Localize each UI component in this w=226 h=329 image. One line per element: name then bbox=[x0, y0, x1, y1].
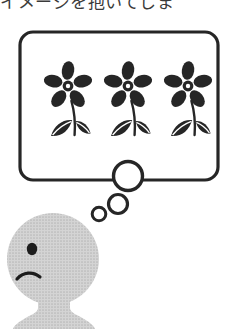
large-thought-circle bbox=[114, 162, 143, 191]
medium-thought-circle bbox=[109, 195, 128, 214]
character-eye bbox=[27, 243, 37, 255]
character-head bbox=[7, 213, 99, 305]
illustration-canvas: イメージを抱いてしま bbox=[0, 0, 226, 329]
illustration-artwork bbox=[0, 0, 226, 329]
small-thought-circle bbox=[92, 207, 106, 221]
